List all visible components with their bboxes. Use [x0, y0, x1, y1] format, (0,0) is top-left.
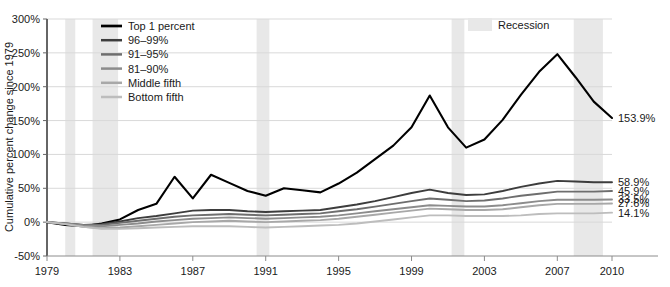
y-axis-tick-label: 100% [12, 148, 40, 160]
y-axis-tick-label: 150% [12, 115, 40, 127]
recession-band [65, 19, 75, 256]
y-axis-tick-label: 250% [12, 47, 40, 59]
y-axis-tick-label: 300% [12, 13, 40, 25]
cumulative-income-change-line-chart: 300%250%200%150%100%50%0%-50% 1979198319… [0, 0, 670, 287]
y-axis-tick-label: 0% [24, 216, 40, 228]
y-axis-tick-label: 200% [12, 81, 40, 93]
x-axis-tick-label: 1991 [253, 265, 277, 277]
x-axis-tick-label: 2010 [600, 265, 624, 277]
recession-legend-label: Recession [498, 19, 549, 31]
chart-container: 300%250%200%150%100%50%0%-50% 1979198319… [0, 0, 670, 287]
x-axis-tick-label: 2007 [545, 265, 569, 277]
y-axis-tick-label: -50% [14, 250, 40, 262]
legend-label: 96–99% [128, 34, 169, 46]
y-axis-title: Cumulative percent change since 1979 [3, 42, 15, 232]
legend-label: 91–95% [128, 48, 169, 60]
x-axis-tick-label: 1999 [399, 265, 423, 277]
recession-legend-group: Recession [468, 18, 549, 31]
y-axis-tick-label: 50% [18, 182, 40, 194]
legend-label: Top 1 percent [128, 20, 195, 32]
series-end-label: 14.1% [618, 207, 649, 219]
x-axis-tick-label: 1983 [108, 265, 132, 277]
x-axis-tick-label: 1979 [35, 265, 59, 277]
series-end-label: 153.9% [618, 112, 656, 124]
recession-band [574, 19, 603, 256]
y-axis-title-group: Cumulative percent change since 1979 [3, 42, 15, 232]
legend-label: Bottom fifth [128, 91, 184, 103]
legend-label: 81–90% [128, 63, 169, 75]
legend-label: Middle fifth [128, 77, 181, 89]
x-axis-tick-label: 1987 [181, 265, 205, 277]
recession-legend-swatch [468, 18, 492, 31]
recession-band [257, 19, 270, 256]
x-axis-tick-label: 1995 [326, 265, 350, 277]
x-axis-tick-label: 2003 [472, 265, 496, 277]
